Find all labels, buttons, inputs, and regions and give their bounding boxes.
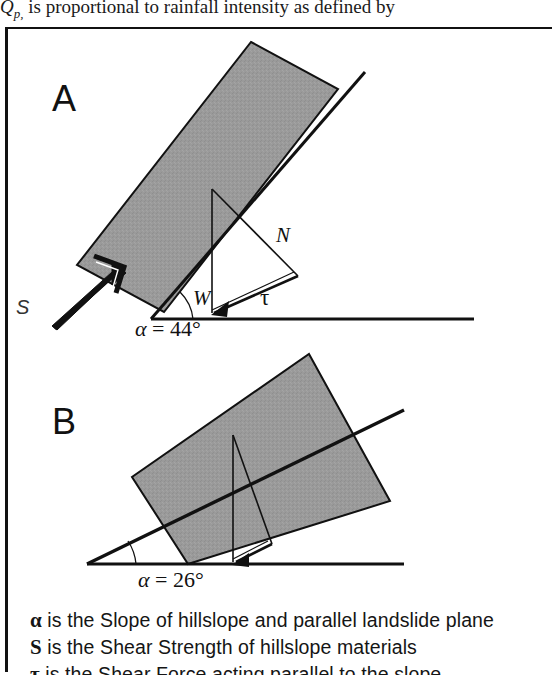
hillslope-diagram <box>8 29 552 672</box>
vector-label-tau: τ <box>260 286 269 309</box>
panel-label-a: A <box>52 81 76 117</box>
page-running-text: Qp, is proportional to rainfall intensit… <box>0 0 552 24</box>
caption-text-tau: is the Shear Force acting parallel to th… <box>40 663 442 675</box>
running-sentence: is proportional to rainfall intensity as… <box>23 0 394 17</box>
caption-glyph-alpha: α <box>30 608 42 632</box>
angle-label-b: α = 26° <box>138 569 204 591</box>
angle-arc-a <box>180 292 193 319</box>
caption-glyph-s: S <box>30 635 42 659</box>
landslide-block-b <box>132 354 390 564</box>
caption-text-alpha: is the Slope of hillslope and parallel l… <box>42 609 494 631</box>
caption-glyph-tau: τ <box>30 662 40 675</box>
angle-label-a: α = 44° <box>135 318 201 340</box>
figure-page: Qp, is proportional to rainfall intensit… <box>0 0 552 675</box>
caption-line-alpha: α is the Slope of hillslope and parallel… <box>30 607 550 634</box>
angle-value-b: = 26° <box>155 567 204 592</box>
vector-label-n: N <box>276 225 290 246</box>
discharge-symbol: Q <box>0 0 14 17</box>
triangle-close-a <box>212 272 294 310</box>
figure-frame: A B N W τ S α = 44° α = 26° α is the Slo… <box>5 27 552 672</box>
alpha-symbol-a: α <box>135 316 147 341</box>
alpha-symbol-b: α <box>138 567 150 592</box>
panel-b-group <box>87 354 404 567</box>
figure-caption: α is the Slope of hillslope and parallel… <box>30 607 550 675</box>
shear-strength-label: S <box>16 297 29 317</box>
caption-line-s: S is the Shear Strength of hillslope mat… <box>30 634 550 661</box>
caption-text-s: is the Shear Strength of hillslope mater… <box>42 636 417 658</box>
vector-label-w: W <box>193 288 211 309</box>
panel-label-b: B <box>52 404 76 440</box>
angle-value-a: = 44° <box>152 316 201 341</box>
caption-line-tau: τ is the Shear Force acting parallel to … <box>30 661 550 675</box>
